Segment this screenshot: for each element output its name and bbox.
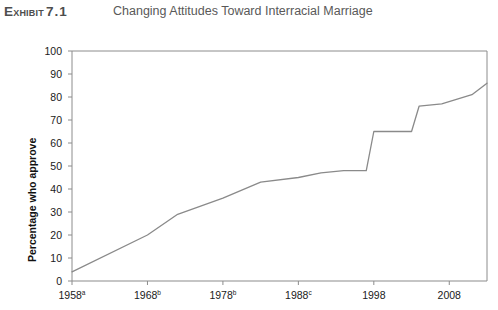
y-tick-label: 20: [36, 230, 62, 240]
page-title: Changing Attitudes Toward Interracial Ma…: [113, 4, 373, 18]
data-series-line: [72, 83, 487, 272]
y-tick-label: 0: [36, 276, 62, 286]
axis-lines: [72, 51, 487, 281]
exhibit-word: Exhibit: [4, 4, 44, 19]
x-tick-label: 2008: [438, 289, 461, 301]
axis-tick-marks: [68, 51, 449, 285]
x-tick-label: 1968b: [134, 289, 161, 301]
y-tick-label: 70: [36, 115, 62, 125]
y-axis-title: Percentage who approve: [26, 138, 38, 262]
x-tick-label: 1958a: [59, 289, 86, 301]
x-tick-label: 1978b: [209, 289, 236, 301]
exhibit-header: Exhibit7.1 Changing Attitudes Toward Int…: [0, 0, 498, 30]
y-tick-label: 40: [36, 184, 62, 194]
exhibit-label: Exhibit7.1: [4, 4, 68, 19]
y-tick-label: 100: [36, 46, 62, 56]
y-tick-label: 60: [36, 138, 62, 148]
y-tick-label: 80: [36, 92, 62, 102]
line-chart-svg: [0, 30, 498, 310]
chart-container: 0102030405060708090100 1958a1968b1978b19…: [0, 30, 498, 310]
y-tick-label: 50: [36, 161, 62, 171]
y-tick-label: 90: [36, 69, 62, 79]
x-tick-label: 1998: [362, 289, 385, 301]
x-tick-label: 1988c: [285, 289, 312, 301]
y-tick-label: 30: [36, 207, 62, 217]
exhibit-number: 7.1: [46, 4, 68, 19]
y-tick-label: 10: [36, 253, 62, 263]
